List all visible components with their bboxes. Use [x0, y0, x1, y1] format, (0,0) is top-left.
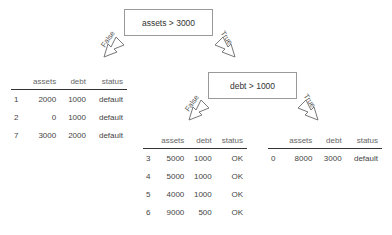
middle-table: assets debt status 350001000OK 450001000… — [143, 136, 247, 221]
table-row: 350001000OK — [143, 149, 247, 168]
root-condition: assets > 3000 — [142, 18, 195, 28]
table-row: 730002000default — [11, 126, 127, 144]
child-condition: debt > 1000 — [230, 81, 275, 91]
right-table: assets debt status 080003000default — [268, 136, 382, 167]
table-row: 450001000OK — [143, 167, 247, 185]
table-row: 69000500OK — [143, 203, 247, 221]
child-node: debt > 1000 — [208, 72, 297, 99]
table-row: 120001000default — [11, 90, 127, 109]
root-node: assets > 3000 — [124, 9, 213, 36]
table-row: 080003000default — [268, 149, 382, 168]
left-table: assets debt status 120001000default 2010… — [11, 77, 127, 144]
table-row: 540001000OK — [143, 185, 247, 203]
table-row: 201000default — [11, 108, 127, 126]
